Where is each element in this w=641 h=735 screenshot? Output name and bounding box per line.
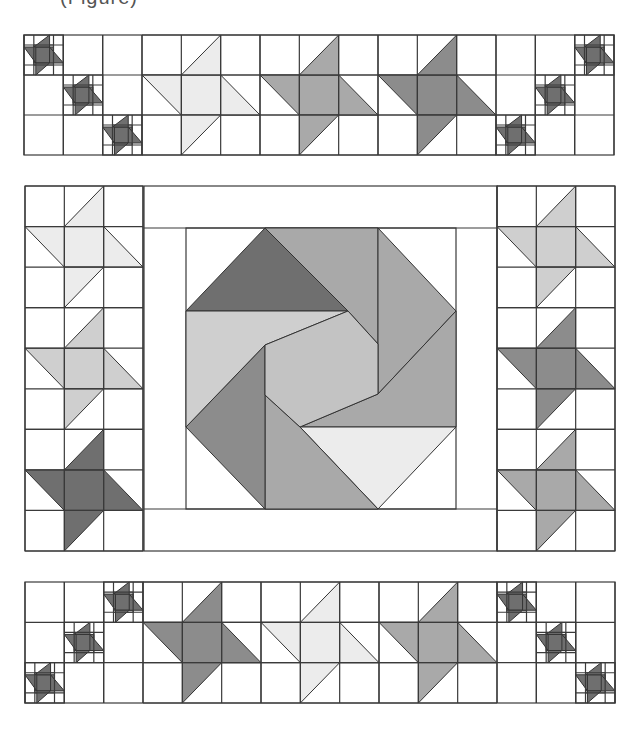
top-border-strip	[24, 35, 614, 155]
middle-left-star-0-center	[64, 227, 103, 268]
top-strip-mini-star-2-right-point	[128, 127, 142, 143]
top-strip-star-0-center	[181, 75, 220, 115]
top-strip-star-2-left-point	[378, 75, 417, 115]
middle-left-star-1-top-point	[64, 308, 103, 349]
middle-right-star-2-right-point	[576, 470, 615, 511]
bottom-strip-star-0-right-point	[222, 622, 261, 662]
top-strip-star-1-center	[299, 75, 338, 115]
top-strip-star-0-left-point	[142, 75, 181, 115]
bottom-strip-mini-star-3-right-point	[523, 594, 537, 610]
left-star-column	[25, 186, 143, 551]
middle-right-star-1-top-point	[536, 308, 575, 349]
middle-right-star-0-top-point	[536, 186, 575, 227]
middle-left-star-0-left-point	[25, 227, 64, 268]
middle-right-star-1-left-point	[497, 348, 536, 389]
right-star-column	[497, 186, 615, 551]
top-strip-mini-star-1-right-point	[89, 87, 103, 103]
bottom-strip-mini-star-0-right-point	[51, 675, 65, 691]
top-strip-mini-star-4-right-point	[561, 87, 575, 103]
middle-left-star-0-top-point	[64, 186, 103, 227]
bottom-strip-star-2-right-point	[458, 622, 497, 662]
top-strip-mini-star-5-right-point	[522, 127, 536, 143]
top-strip-star-0-right-point	[221, 75, 260, 115]
middle-left-star-0-bottom-point	[64, 267, 103, 308]
top-strip-star-1-left-point	[260, 75, 299, 115]
bottom-strip-star-2-bottom-point	[418, 663, 457, 703]
middle-right-star-0-bottom-point	[536, 267, 575, 308]
middle-right-star-1-center	[536, 348, 575, 389]
middle-left-star-2-top-point	[64, 429, 103, 470]
middle-left-star-1-left-point	[25, 348, 64, 389]
middle-right-star-2-left-point	[497, 470, 536, 511]
middle-left-star-1-bottom-point	[64, 389, 103, 430]
bottom-strip-mini-star-1-right-point	[90, 634, 104, 650]
top-strip-mini-star-0-right-point	[50, 47, 64, 63]
center-pinwheel-block	[144, 186, 497, 551]
top-strip-star-2-top-point	[417, 35, 456, 75]
top-strip-star-0-top-point	[181, 35, 220, 75]
bottom-strip-star-1-right-point	[340, 622, 379, 662]
bottom-strip-mini-star-5-right-point	[601, 675, 615, 691]
bottom-strip-star-2-top-point	[418, 582, 457, 622]
top-strip-star-2-bottom-point	[417, 115, 456, 155]
middle-right-star-2-bottom-point	[536, 510, 575, 551]
middle-right-star-0-right-point	[576, 227, 615, 268]
middle-left-star-2-right-point	[104, 470, 143, 511]
middle-left-star-1-center	[64, 348, 103, 389]
middle-right-star-1-right-point	[576, 348, 615, 389]
bottom-strip-star-2-left-point	[379, 622, 418, 662]
top-strip-star-1-top-point	[299, 35, 338, 75]
bottom-strip-star-1-left-point	[261, 622, 300, 662]
top-strip-star-2-right-point	[457, 75, 496, 115]
top-strip-star-2-center	[417, 75, 456, 115]
bottom-strip-star-0-center	[182, 622, 221, 662]
middle-right-star-1-bottom-point	[536, 389, 575, 430]
middle-left-star-1-right-point	[104, 348, 143, 389]
middle-right-star-2-center	[536, 470, 575, 511]
middle-left-star-2-center	[64, 470, 103, 511]
bottom-strip-mini-star-2-right-point	[129, 594, 143, 610]
bottom-border-strip	[25, 582, 615, 703]
bottom-strip-star-1-top-point	[300, 582, 339, 622]
top-strip-star-0-bottom-point	[181, 115, 220, 155]
bottom-strip-star-0-left-point	[143, 622, 182, 662]
top-strip-star-1-right-point	[339, 75, 378, 115]
middle-right-star-2-top-point	[536, 429, 575, 470]
top-strip-star-1-bottom-point	[299, 115, 338, 155]
middle-right-star-0-center	[536, 227, 575, 268]
bottom-strip-star-2-center	[418, 622, 457, 662]
top-strip-mini-star-3-right-point	[600, 47, 614, 63]
middle-right-star-0-left-point	[497, 227, 536, 268]
middle-left-star-2-left-point	[25, 470, 64, 511]
bottom-strip-mini-star-4-right-point	[562, 634, 576, 650]
bottom-strip-star-0-top-point	[182, 582, 221, 622]
bottom-strip-star-1-bottom-point	[300, 663, 339, 703]
bottom-strip-star-0-bottom-point	[182, 663, 221, 703]
middle-left-star-0-right-point	[104, 227, 143, 268]
bottom-strip-star-1-center	[300, 622, 339, 662]
quilt-diagram	[0, 0, 641, 735]
middle-left-star-2-bottom-point	[64, 510, 103, 551]
